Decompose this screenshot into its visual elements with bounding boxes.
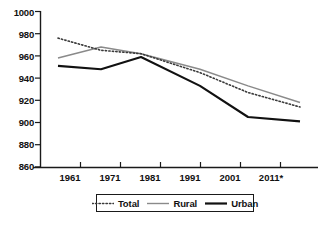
series-line-urban bbox=[58, 57, 300, 121]
x-axis-ticks bbox=[81, 162, 281, 168]
plot-area bbox=[0, 0, 329, 226]
thin-line-swatch-icon bbox=[147, 199, 169, 208]
legend-item-urban: Urban bbox=[205, 198, 258, 209]
dotted-line-swatch-icon bbox=[92, 199, 114, 208]
legend-label-total: Total bbox=[118, 198, 140, 209]
legend-item-total: Total bbox=[92, 198, 140, 209]
thick-line-swatch-icon bbox=[205, 199, 227, 208]
series-line-total bbox=[58, 38, 300, 107]
legend-label-urban: Urban bbox=[231, 198, 258, 209]
chart-legend: Total Rural Urban bbox=[96, 194, 254, 212]
legend-item-rural: Rural bbox=[147, 198, 197, 209]
y-axis-ticks bbox=[35, 12, 41, 167]
sex-ratio-line-chart: 1000 980 960 940 920 900 880 860 1961 19… bbox=[0, 0, 329, 226]
legend-label-rural: Rural bbox=[173, 198, 197, 209]
